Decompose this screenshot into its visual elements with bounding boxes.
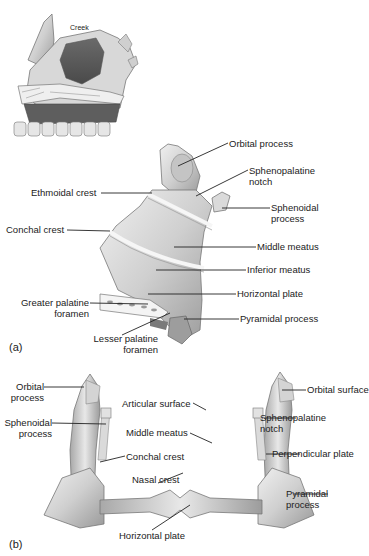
label-pyramidal-process-b-2: process — [286, 499, 319, 510]
label-greater-palatine-foramen-2: foramen — [19, 308, 89, 319]
label-pyramidal-process-b: Pyramidal — [286, 488, 328, 499]
label-sphenopalatine-notch-a: Sphenopalatine — [249, 165, 315, 176]
label-middle-meatus-b: Middle meatus — [126, 427, 188, 438]
label-middle-meatus-a: Middle meatus — [257, 241, 319, 252]
panel-b-tag: (b) — [9, 538, 22, 550]
label-conchal-crest-b: Conchal crest — [126, 451, 184, 462]
label-pyramidal-process-a: Pyramidal process — [240, 313, 318, 324]
panel-a-palatine-bone — [100, 144, 230, 344]
label-orbital-process-b: Orbital — [4, 381, 44, 392]
label-conchal-crest-a: Conchal crest — [6, 224, 64, 235]
label-perpendicular-plate: Perpendicular plate — [272, 448, 354, 459]
label-sphenoidal-process-b: Sphenoidal — [0, 417, 52, 428]
label-sphenoidal-process-b-2: process — [0, 428, 52, 439]
label-sphenopalatine-notch-b-2: notch — [260, 423, 283, 434]
panel-a-tag: (a) — [9, 341, 22, 353]
inset-skull-section — [14, 14, 138, 136]
label-sphenoidal-process-a: Sphenoidal — [271, 202, 319, 213]
label-horizontal-plate-a: Horizontal plate — [237, 288, 303, 299]
label-orbital-surface: Orbital surface — [307, 384, 369, 395]
label-horizontal-plate-b: Horizontal plate — [119, 530, 185, 541]
label-orbital-process-b-2: process — [4, 392, 44, 403]
inset-label: Creek — [70, 24, 89, 31]
label-ethmoidal-crest: Ethmoidal crest — [31, 187, 96, 198]
label-inferior-meatus: Inferior meatus — [247, 264, 310, 275]
label-lesser-palatine-foramen-2: foramen — [86, 344, 158, 355]
label-greater-palatine-foramen: Greater palatine — [19, 297, 89, 308]
label-lesser-palatine-foramen: Lesser palatine — [86, 333, 158, 344]
label-nasal-crest: Nasal crest — [132, 474, 180, 485]
label-sphenopalatine-notch-a-2: notch — [249, 176, 272, 187]
label-sphenoidal-process-a-2: process — [271, 213, 304, 224]
label-articular-surface: Articular surface — [122, 398, 191, 409]
label-sphenopalatine-notch-b: Sphenopalatine — [260, 412, 326, 423]
label-orbital-process: Orbital process — [229, 138, 293, 149]
